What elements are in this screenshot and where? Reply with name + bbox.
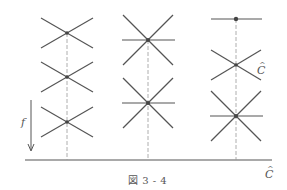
column-1: [41, 18, 93, 160]
c-hat-right-label: C: [257, 65, 265, 76]
column-3: [210, 17, 263, 160]
figure-caption: 図 3 - 4: [128, 172, 167, 187]
f-arrow-icon: [28, 100, 34, 151]
six-point-star-icon: [122, 78, 175, 128]
bar-dot-icon: [211, 17, 262, 21]
column-2: [122, 15, 175, 160]
six-point-star-icon: [122, 15, 175, 65]
diagram-canvas: [0, 0, 287, 190]
c-hat-axis-label: C: [265, 169, 273, 180]
x-cross-icon: [41, 18, 93, 48]
f-label: f: [21, 117, 25, 128]
six-point-star-icon: [210, 91, 263, 141]
